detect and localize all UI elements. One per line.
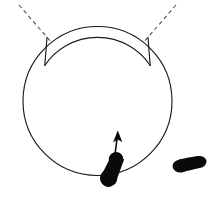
radial-connector-right — [148, 37, 150, 65]
radial-connector-left — [45, 37, 47, 65]
reference-foot-shape — [172, 155, 208, 174]
diagram-canvas — [0, 0, 218, 199]
figure-root — [0, 0, 218, 199]
subject-foot-shape — [97, 150, 127, 190]
heading-arrow-head — [113, 131, 122, 143]
inner-arc-segment — [45, 37, 150, 65]
outer-circle — [23, 27, 172, 176]
